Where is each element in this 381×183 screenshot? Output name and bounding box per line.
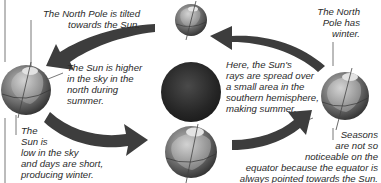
label-line: a small area in the (226, 81, 319, 92)
label-line: southern hemisphere, (226, 92, 319, 103)
label-north-pole-winter: The North Pole has winter. (300, 6, 360, 39)
label-line: Pole has (300, 17, 360, 28)
earth-left (1, 62, 51, 118)
label-line: summer. (67, 95, 142, 106)
earth-bottom (165, 124, 217, 183)
label-line: and days are short, (21, 158, 103, 169)
label-line: low in the sky (21, 147, 103, 158)
label-line: noticeable on the (220, 151, 378, 162)
label-line: towards the Sun. (30, 19, 140, 30)
label-rays-spread: Here, the Sun's rays are spread over a s… (226, 59, 319, 114)
label-line: always pointed towards the Sun. (220, 173, 378, 183)
label-north-pole-tilted: The North Pole is tilted towards the Sun… (30, 8, 140, 30)
label-line: producing winter. (21, 169, 103, 180)
seasons-diagram: The North Pole is tilted towards the Sun… (0, 0, 381, 183)
label-line: The North (300, 6, 360, 17)
earth-top (175, 1, 207, 40)
label-line: The North Pole is tilted (30, 8, 140, 19)
label-line: are not so (220, 140, 378, 151)
label-seasons-equator: Seasons are not so noticeable on the equ… (220, 129, 378, 183)
label-line: equator because the equator is (220, 162, 378, 173)
earth-right (321, 68, 369, 130)
label-line: in the sky in the (67, 73, 142, 84)
label-line: Sun is (21, 136, 103, 147)
label-line: The (21, 125, 103, 136)
sun (161, 62, 221, 122)
label-line: winter. (300, 28, 360, 39)
label-line: north during (67, 84, 142, 95)
label-line: making summer. (226, 103, 319, 114)
label-line: Seasons (220, 129, 378, 140)
label-line: rays are spread over (226, 70, 319, 81)
label-sun-low: The Sun is low in the sky and days are s… (21, 125, 103, 180)
label-sun-higher: The Sun is higher in the sky in the nort… (67, 62, 142, 106)
label-line: The Sun is higher (67, 62, 142, 73)
label-line: Here, the Sun's (226, 59, 319, 70)
